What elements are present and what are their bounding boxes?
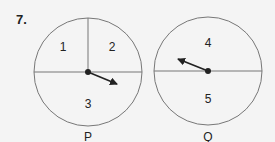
- spinner-q-pivot-icon: [205, 68, 211, 74]
- spinner-p-section-label: 2: [109, 40, 116, 54]
- spinner-q-arrow-icon: [178, 59, 208, 71]
- spinner-figure: 1 2 3 P 4 5 Q: [0, 0, 275, 142]
- spinner-q-section-label: 5: [205, 92, 212, 106]
- spinner-p-label: P: [84, 130, 92, 142]
- spinner-p-section-label: 1: [60, 40, 67, 54]
- spinner-p-arrow-icon: [88, 72, 117, 84]
- spinner-q: 4 5 Q: [154, 17, 262, 142]
- spinner-q-section-label: 4: [205, 36, 212, 50]
- spinner-p-pivot-icon: [85, 69, 91, 75]
- spinner-q-label: Q: [203, 130, 212, 142]
- spinner-p-section-label: 3: [85, 97, 92, 111]
- spinner-p: 1 2 3 P: [34, 18, 142, 142]
